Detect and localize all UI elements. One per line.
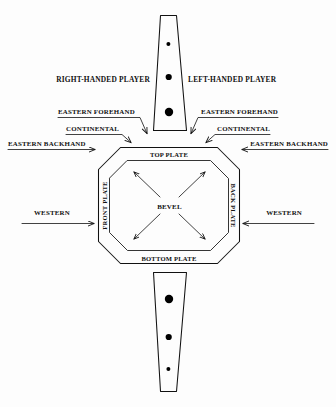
bevel-label: BEVEL bbox=[157, 203, 182, 211]
left-handed-player-label: LEFT-HANDED PLAYER bbox=[188, 75, 277, 84]
left-continental-label: CONTINENTAL bbox=[66, 125, 119, 132]
lower-handle-dot-medium bbox=[166, 334, 172, 340]
right-eastern-backhand-callout: EASTERN BACKHAND bbox=[242, 140, 328, 150]
right-western-callout: WESTERN bbox=[243, 209, 314, 224]
upper-handle-dot-medium bbox=[166, 74, 172, 80]
right-grip-callouts: EASTERN FOREHAND CONTINENTAL EASTERN BAC… bbox=[191, 108, 328, 224]
lower-handle bbox=[154, 273, 187, 392]
grip-diagram-canvas: TOP PLATE BOTTOM PLATE FRONT PLATE BACK … bbox=[0, 0, 336, 407]
left-western-label: WESTERN bbox=[34, 209, 70, 216]
bevel-arrow-upper-right bbox=[179, 172, 205, 197]
bevel-arrow-lower-right bbox=[179, 214, 205, 239]
front-plate-label: FRONT PLATE bbox=[101, 181, 108, 230]
upper-handle-dot-large bbox=[165, 108, 173, 116]
upper-handle-dot-small bbox=[166, 42, 170, 46]
left-eastern-backhand-label: EASTERN BACKHAND bbox=[8, 140, 86, 147]
grip-diagram: TOP PLATE BOTTOM PLATE FRONT PLATE BACK … bbox=[0, 0, 336, 407]
bevel-arrow-lower-left bbox=[134, 214, 160, 239]
lower-handle-dot-small bbox=[166, 367, 170, 371]
left-eastern-forehand-label: EASTERN FOREHAND bbox=[58, 108, 135, 115]
bevel-arrow-upper-left bbox=[134, 172, 160, 197]
right-eastern-forehand-label: EASTERN FOREHAND bbox=[201, 108, 278, 115]
lower-handle-dot-large bbox=[165, 295, 173, 303]
right-continental-label: CONTINENTAL bbox=[217, 125, 270, 132]
right-eastern-backhand-label: EASTERN BACKHAND bbox=[250, 140, 328, 147]
left-eastern-backhand-callout: EASTERN BACKHAND bbox=[8, 140, 95, 150]
right-western-label: WESTERN bbox=[266, 209, 302, 216]
bottom-plate-label: BOTTOM PLATE bbox=[141, 255, 196, 262]
right-handed-player-label: RIGHT-HANDED PLAYER bbox=[56, 75, 150, 84]
left-grip-callouts: EASTERN FOREHAND CONTINENTAL EASTERN BAC… bbox=[8, 108, 147, 224]
left-western-callout: WESTERN bbox=[22, 209, 94, 224]
upper-handle bbox=[154, 16, 187, 131]
top-plate-label: TOP PLATE bbox=[150, 151, 188, 158]
back-plate-label: BACK PLATE bbox=[230, 183, 237, 228]
